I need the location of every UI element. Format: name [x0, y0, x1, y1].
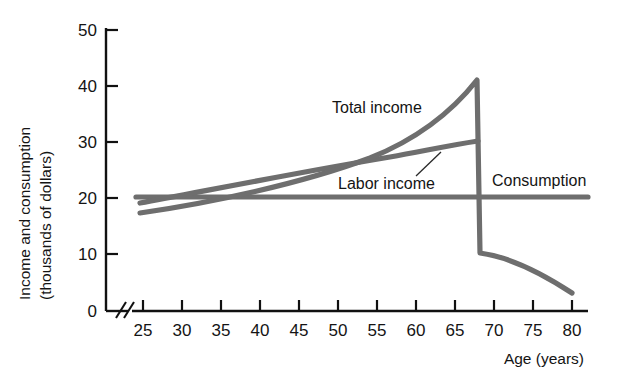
y-tick-label-40: 40 — [78, 77, 97, 96]
x-tick-label-25: 25 — [134, 321, 153, 340]
x-tick-label-55: 55 — [368, 321, 387, 340]
y-tick-label-0: 0 — [88, 302, 97, 321]
x-tick-label-45: 45 — [290, 321, 309, 340]
annotation-consumption: Consumption — [492, 172, 586, 189]
y-axis-title-line1: Income and consumption — [16, 127, 33, 300]
annotation-labor-income-leader — [416, 152, 441, 176]
x-tick-label-75: 75 — [524, 321, 543, 340]
annotation-total-income: Total income — [332, 99, 422, 116]
x-axis: 25 30 35 40 45 50 55 60 65 70 75 80 Age … — [106, 300, 588, 367]
x-tick-label-35: 35 — [212, 321, 231, 340]
x-tick-label-50: 50 — [329, 321, 348, 340]
x-axis-title: Age (years) — [504, 350, 584, 367]
y-axis-title-line2: (thousands of dollars) — [37, 151, 54, 300]
x-tick-label-30: 30 — [173, 321, 192, 340]
y-axis-title: Income and consumption (thousands of dol… — [16, 127, 54, 300]
y-tick-label-50: 50 — [78, 21, 97, 40]
x-tick-label-65: 65 — [446, 321, 465, 340]
x-tick-label-70: 70 — [485, 321, 504, 340]
chart-svg: 50 40 30 20 10 0 Income and consumption … — [0, 0, 639, 377]
y-axis: 50 40 30 20 10 0 — [78, 21, 118, 321]
y-tick-label-10: 10 — [78, 245, 97, 264]
x-tick-label-40: 40 — [251, 321, 270, 340]
series-labor-income — [140, 141, 478, 203]
x-tick-label-80: 80 — [563, 321, 582, 340]
y-tick-label-30: 30 — [78, 133, 97, 152]
life-cycle-income-consumption-chart: 50 40 30 20 10 0 Income and consumption … — [0, 0, 639, 377]
annotation-labor-income: Labor income — [338, 175, 435, 192]
y-tick-label-20: 20 — [78, 189, 97, 208]
x-tick-label-60: 60 — [407, 321, 426, 340]
